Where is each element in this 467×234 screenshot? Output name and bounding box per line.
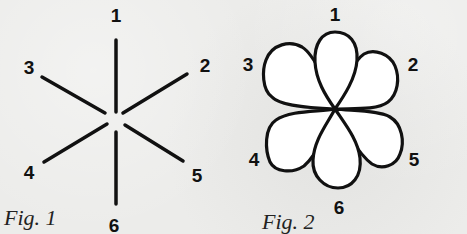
- line-2: [123, 74, 187, 113]
- fig1-label-1: 1: [111, 5, 122, 26]
- fig1-label-3: 3: [24, 57, 35, 78]
- line-5: [125, 125, 183, 161]
- figure-1-labels: 1 2 3 4 5 6 Fig. 1: [3, 5, 210, 234]
- fig1-label-2: 2: [200, 55, 211, 76]
- fig2-label-3: 3: [243, 54, 254, 75]
- fig1-label-6: 6: [109, 215, 120, 234]
- line-4: [44, 124, 107, 162]
- figure-1: [42, 40, 187, 204]
- fig2-label-1: 1: [330, 4, 341, 25]
- fig1-label-5: 5: [192, 165, 203, 186]
- fig1-label-4: 4: [24, 162, 35, 183]
- line-3: [42, 77, 105, 113]
- fig2-label-2: 2: [408, 54, 419, 75]
- fig2-caption: Fig. 2: [261, 209, 315, 234]
- fig2-label-4: 4: [249, 149, 260, 170]
- fig2-label-6: 6: [334, 197, 345, 218]
- diagram-canvas: 1 2 3 4 5 6 Fig. 1 1 2 3 4 5 6 Fig. 2: [0, 0, 467, 234]
- fig1-caption: Fig. 1: [3, 205, 57, 230]
- fig2-label-5: 5: [409, 149, 420, 170]
- figure-2: [264, 32, 403, 188]
